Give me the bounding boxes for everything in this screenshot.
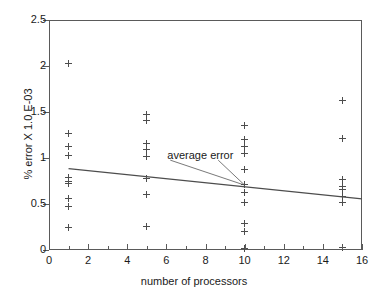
y-tick-label: 0.5 xyxy=(31,198,46,209)
x-minor-tick-mark xyxy=(225,246,226,250)
x-minor-tick-mark xyxy=(69,246,70,250)
y-tick-label: 2.5 xyxy=(31,14,46,25)
x-tick-label: 16 xyxy=(356,255,368,266)
x-tick-label: 0 xyxy=(46,255,52,266)
annotation-leader-line xyxy=(170,160,244,185)
x-tick-mark xyxy=(206,244,207,250)
y-tick-label: 2 xyxy=(40,60,46,71)
y-tick-label: 1.5 xyxy=(31,106,46,117)
x-tick-mark xyxy=(166,244,167,250)
x-tick-label: 4 xyxy=(124,255,130,266)
vector-layer xyxy=(49,20,362,250)
plot-canvas xyxy=(49,20,362,250)
x-tick-mark xyxy=(127,244,128,250)
y-axis-title: % error X 1.0 E-03 xyxy=(22,54,34,214)
x-tick-label: 12 xyxy=(278,255,290,266)
x-minor-tick-mark xyxy=(264,246,265,250)
x-minor-tick-mark xyxy=(147,246,148,250)
x-tick-label: 14 xyxy=(317,255,329,266)
x-tick-mark xyxy=(323,244,324,250)
x-tick-label: 2 xyxy=(85,255,91,266)
average-error-trendline xyxy=(69,169,362,199)
x-minor-tick-mark xyxy=(186,246,187,250)
x-tick-label: 10 xyxy=(239,255,251,266)
x-tick-mark xyxy=(49,244,50,250)
annotation-label-average-error: average error xyxy=(167,149,233,161)
x-tick-label: 8 xyxy=(202,255,208,266)
x-minor-tick-mark xyxy=(108,246,109,250)
x-tick-mark xyxy=(245,244,246,250)
x-tick-mark xyxy=(284,244,285,250)
chart-figure: number of processors % error X 1.0 E-03 … xyxy=(0,0,388,296)
x-tick-mark xyxy=(88,244,89,250)
x-tick-mark xyxy=(362,244,363,250)
x-minor-tick-mark xyxy=(303,246,304,250)
x-axis-title: number of processors xyxy=(0,275,388,287)
x-minor-tick-mark xyxy=(342,246,343,250)
x-tick-label: 6 xyxy=(163,255,169,266)
y-tick-label: 1 xyxy=(40,152,46,163)
annotation-leader-line xyxy=(218,160,244,185)
